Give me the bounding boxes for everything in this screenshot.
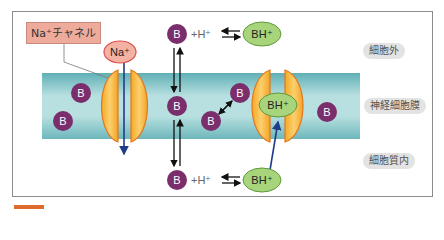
proton-bottom-label: +H⁺ (191, 174, 211, 186)
na-channel-label: Na⁺チャネル (26, 22, 101, 44)
na-ion-label: Na⁺ (110, 46, 130, 58)
bh-top-label: BH⁺ (251, 28, 272, 40)
channel-label-pointer (64, 44, 108, 78)
region-label-extracellular: 細胞外 (363, 43, 405, 59)
neuron-membrane (42, 73, 360, 139)
molecule-b-left-lower-label: B (59, 115, 66, 127)
molecule-b-right-label: B (323, 106, 330, 118)
bh-bottom-label: BH⁺ (251, 174, 272, 186)
molecule-b-membrane-lower-label: B (207, 115, 214, 127)
proton-top-label: +H⁺ (191, 28, 211, 40)
region-label-membrane: 神経細胞膜 (364, 98, 426, 114)
molecule-b-bottom-label: B (173, 174, 180, 186)
molecule-b-left-upper-label: B (77, 87, 84, 99)
molecule-b-top-label: B (173, 28, 180, 40)
bh-in-channel-label: BH⁺ (267, 99, 288, 111)
molecule-b-membrane-upper-label: B (236, 87, 243, 99)
molecule-b-membrane-center-label: B (173, 100, 180, 112)
region-label-intracellular: 細胞質内 (363, 153, 415, 169)
accent-bar (14, 205, 44, 209)
